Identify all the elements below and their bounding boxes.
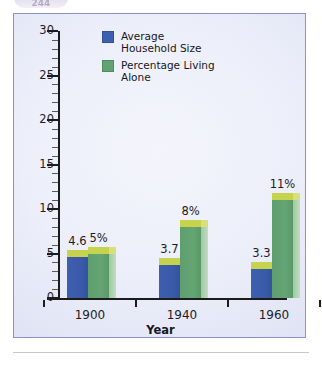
- legend-label-average-household-size: Average Household Size: [121, 30, 201, 54]
- x-axis-separator-tick: [227, 300, 229, 307]
- page-number-tab: 244: [14, 0, 68, 8]
- y-axis-minor-tick: [52, 173, 58, 174]
- bar-front-face: [272, 200, 293, 298]
- bar-top-side-face: [293, 193, 300, 200]
- y-axis-minor-tick: [52, 138, 58, 139]
- bar-top-face: [272, 193, 293, 200]
- y-axis-minor-tick: [52, 49, 58, 50]
- bar-top-face: [159, 258, 180, 265]
- bar-average-household-size[interactable]: [159, 265, 180, 298]
- x-axis-separator-tick: [319, 300, 321, 307]
- y-axis-minor-tick: [52, 58, 58, 59]
- x-axis-line: [47, 298, 287, 300]
- x-axis-title: Year: [14, 323, 307, 337]
- bar-top-side-face: [109, 247, 116, 254]
- bar-front-face: [88, 254, 109, 299]
- page-number-label: 244: [14, 0, 68, 8]
- bar-percentage-living-alone[interactable]: [88, 254, 109, 299]
- y-axis-minor-tick: [52, 84, 58, 85]
- y-axis-minor-tick: [52, 40, 58, 41]
- bar-top-face: [88, 247, 109, 254]
- bar-top-face: [67, 250, 88, 257]
- bar-value-label: 5%: [76, 233, 122, 245]
- y-axis-minor-tick: [52, 147, 58, 148]
- chart-legend: Average Household Size Percentage Living…: [102, 30, 238, 88]
- legend-swatch-icon-blue: [102, 31, 114, 43]
- bar-percentage-living-alone[interactable]: [180, 227, 201, 298]
- y-axis-minor-tick: [52, 93, 58, 94]
- x-axis-tick-label: 1960: [246, 308, 302, 322]
- bar-value-label: 11%: [260, 179, 306, 191]
- bar-percentage-living-alone[interactable]: [272, 200, 293, 298]
- bar-side-face: [109, 254, 116, 299]
- y-axis-minor-tick: [52, 218, 58, 219]
- bar-side-face: [293, 200, 300, 298]
- bar-top-side-face: [201, 220, 208, 227]
- y-axis-minor-tick: [52, 227, 58, 228]
- bar-front-face: [67, 257, 88, 298]
- bar-front-face: [180, 227, 201, 298]
- x-axis-separator-tick: [135, 300, 137, 307]
- y-axis-tick-label: 10: [24, 203, 54, 215]
- y-axis-tick-label: 5: [24, 248, 54, 260]
- y-axis-minor-tick: [52, 271, 58, 272]
- bar-average-household-size[interactable]: [67, 257, 88, 298]
- y-axis-tick-label: 25: [24, 70, 54, 82]
- y-axis-minor-tick: [52, 102, 58, 103]
- legend-item-average-household-size: Average Household Size: [102, 30, 238, 54]
- y-axis-tick-label: 0: [24, 292, 54, 304]
- x-axis-tick-label: 1900: [62, 308, 118, 322]
- y-axis-minor-tick: [52, 191, 58, 192]
- y-axis-tick-label: 20: [24, 114, 54, 126]
- plot-area: 051015202530 19001940196019802012 4.65%3…: [14, 14, 307, 339]
- y-axis-minor-tick: [52, 129, 58, 130]
- y-axis-tick-label: 15: [24, 159, 54, 171]
- bar-side-face: [201, 227, 208, 298]
- bar-front-face: [159, 265, 180, 298]
- y-axis-minor-tick: [52, 280, 58, 281]
- bar-top-face: [180, 220, 201, 227]
- bar-value-label: 8%: [168, 206, 214, 218]
- y-axis-line: [58, 31, 60, 299]
- x-axis-separator-tick: [43, 300, 45, 307]
- y-axis-minor-tick: [52, 262, 58, 263]
- y-axis-tick-label: 30: [24, 25, 54, 37]
- legend-item-percentage-living-alone: Percentage Living Alone: [102, 59, 238, 83]
- bar-top-face: [251, 262, 272, 269]
- footer-divider: [13, 352, 309, 353]
- y-axis-minor-tick: [52, 182, 58, 183]
- legend-label-percentage-living-alone: Percentage Living Alone: [121, 59, 215, 83]
- x-axis-tick-label: 1940: [154, 308, 210, 322]
- legend-swatch-icon-green: [102, 60, 114, 72]
- bar-front-face: [251, 269, 272, 298]
- chart-panel: 051015202530 19001940196019802012 4.65%3…: [13, 13, 306, 338]
- bar-average-household-size[interactable]: [251, 269, 272, 298]
